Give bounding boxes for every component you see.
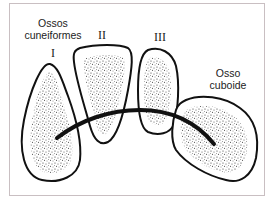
numeral-iii: III: [150, 31, 170, 43]
cuboid-label-line1: Osso: [200, 67, 256, 79]
cuneiform-group-label-line2: cuneiformes: [18, 29, 88, 41]
numeral-ii: II: [94, 29, 110, 41]
cuboid-label: Osso cuboide: [200, 67, 256, 91]
cuneiform-group-label: Ossos cuneiformes: [18, 17, 88, 41]
numeral-i: I: [47, 47, 59, 59]
cuneiform-bone-iii: [138, 49, 178, 134]
cuboid-label-line2: cuboide: [200, 79, 256, 91]
cuneiform-bone-ii: [74, 45, 132, 143]
cuboid-bone: [172, 97, 257, 181]
cuneiform-group-label-line1: Ossos: [18, 17, 88, 29]
cuneiform-bone-i: [22, 64, 81, 181]
